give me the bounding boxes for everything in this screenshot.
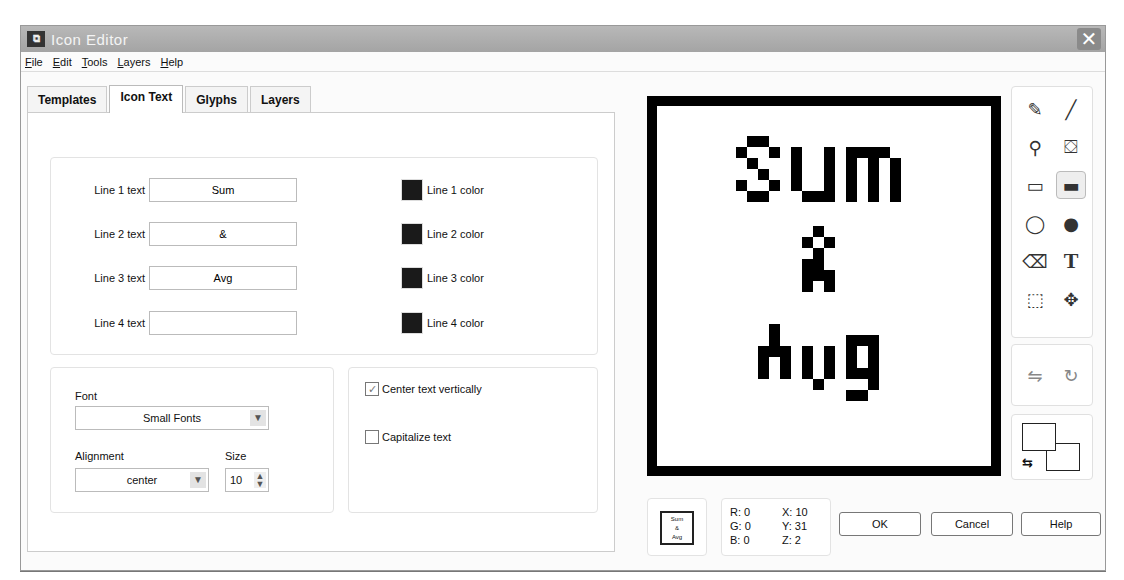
- menu-bar: File Edit Tools Layers Help: [21, 52, 1105, 72]
- line-2-input[interactable]: [149, 222, 297, 246]
- line-3-label: Line 3 text: [51, 272, 149, 284]
- line-3-color-swatch[interactable]: [401, 267, 423, 289]
- capitalize-checkbox[interactable]: [365, 430, 379, 444]
- eraser-icon[interactable]: ⌫: [1020, 247, 1050, 275]
- size-stepper[interactable]: 10 ▲▼: [225, 468, 269, 492]
- line-4-input[interactable]: [149, 311, 297, 335]
- line-2-color[interactable]: Line 2 color: [401, 222, 484, 246]
- primary-color-box[interactable]: [1022, 423, 1056, 451]
- chevron-down-icon[interactable]: ▼: [190, 472, 206, 488]
- green-value: G: 0: [730, 519, 751, 533]
- y-coordinate: Y: 31: [782, 519, 808, 533]
- line-4-row: Line 4 text: [51, 311, 297, 335]
- line-4-color-label: Line 4 color: [427, 317, 484, 329]
- page-heading-fragment: [16, 0, 76, 4]
- ellipse-icon[interactable]: ◯: [1020, 209, 1050, 237]
- filled-rectangle-icon[interactable]: ▬: [1056, 171, 1086, 199]
- alignment-label: Alignment: [75, 450, 124, 462]
- selection-icon[interactable]: ⬚: [1020, 285, 1050, 313]
- line-3-input[interactable]: [149, 266, 297, 290]
- line-2-label: Line 2 text: [51, 228, 149, 240]
- spin-arrows-icon[interactable]: ▲▼: [254, 472, 266, 488]
- icon-thumbnail: Sum & Avg: [660, 511, 694, 545]
- tab-icon-text[interactable]: Icon Text: [109, 85, 183, 113]
- text-lines-group: Line 1 text Line 2 text Line 3 text Line…: [50, 157, 598, 355]
- ok-button[interactable]: OK: [839, 512, 921, 536]
- color-picker-icon[interactable]: ⚲: [1020, 133, 1050, 161]
- line-3-row: Line 3 text: [51, 266, 297, 290]
- title-bar: ⧉ Icon Editor ✕: [21, 26, 1105, 52]
- center-vertically-option[interactable]: ✓ Center text vertically: [365, 382, 482, 396]
- line-3-color[interactable]: Line 3 color: [401, 266, 484, 290]
- swap-colors-icon[interactable]: ⇆: [1022, 455, 1033, 470]
- rotate-icon[interactable]: ↻: [1056, 361, 1086, 389]
- font-label: Font: [75, 390, 97, 402]
- center-vertically-checkbox[interactable]: ✓: [365, 382, 379, 396]
- menu-help[interactable]: Help: [160, 56, 183, 68]
- pencil-icon[interactable]: ✎: [1020, 95, 1050, 123]
- capitalize-label: Capitalize text: [382, 431, 451, 443]
- preview-line-3: Avg: [662, 533, 692, 542]
- line-1-color[interactable]: Line 1 color: [401, 178, 484, 202]
- z-coordinate: Z: 2: [782, 533, 808, 547]
- line-2-color-swatch[interactable]: [401, 223, 423, 245]
- menu-edit[interactable]: Edit: [53, 56, 72, 68]
- flip-horizontal-icon[interactable]: ⇋: [1020, 361, 1050, 389]
- cancel-button[interactable]: Cancel: [931, 512, 1013, 536]
- x-coordinate: X: 10: [782, 505, 808, 519]
- tab-glyphs[interactable]: Glyphs: [185, 86, 248, 112]
- line-1-row: Line 1 text: [51, 178, 297, 202]
- move-icon[interactable]: ✥: [1056, 285, 1086, 313]
- line-4-color-swatch[interactable]: [401, 312, 423, 334]
- menu-file[interactable]: File: [25, 56, 43, 68]
- tool-palette: ✎ ╱ ⚲ ⛋ ▭ ▬ ◯ ● ⌫ T ⬚ ✥: [1011, 86, 1093, 338]
- text-options-group: ✓ Center text vertically Capitalize text: [348, 367, 598, 513]
- color-swap-palette: ⇆: [1011, 414, 1093, 480]
- preview-line-1: Sum: [662, 515, 692, 524]
- red-value: R: 0: [730, 505, 751, 519]
- capitalize-option[interactable]: Capitalize text: [365, 430, 451, 444]
- line-4-label: Line 4 text: [51, 317, 149, 329]
- text-tool-icon[interactable]: T: [1056, 247, 1086, 275]
- line-4-color[interactable]: Line 4 color: [401, 311, 484, 335]
- app-icon: ⧉: [27, 31, 45, 47]
- fill-bucket-icon[interactable]: ⛋: [1056, 133, 1086, 161]
- line-1-label: Line 1 text: [51, 184, 149, 196]
- pixel-info: R: 0 G: 0 B: 0 X: 10 Y: 31 Z: 2: [721, 498, 831, 556]
- line-3-color-label: Line 3 color: [427, 272, 484, 284]
- blue-value: B: 0: [730, 533, 751, 547]
- rectangle-icon[interactable]: ▭: [1020, 171, 1050, 199]
- line-2-row: Line 2 text: [51, 222, 297, 246]
- icon-editor-window: ⧉ Icon Editor ✕ File Edit Tools Layers H…: [20, 25, 1106, 571]
- close-button[interactable]: ✕: [1077, 28, 1101, 50]
- font-select[interactable]: Small Fonts ▼: [75, 406, 269, 430]
- transform-palette: ⇋ ↻: [1011, 344, 1093, 406]
- window-title: Icon Editor: [51, 31, 128, 48]
- line-2-color-label: Line 2 color: [427, 228, 484, 240]
- menu-layers[interactable]: Layers: [117, 56, 150, 68]
- filled-ellipse-icon[interactable]: ●: [1056, 209, 1086, 237]
- alignment-select[interactable]: center ▼: [75, 468, 209, 492]
- tab-bar: Templates Icon Text Glyphs Layers: [27, 80, 313, 112]
- font-select-value: Small Fonts: [143, 412, 201, 424]
- center-vertically-label: Center text vertically: [382, 383, 482, 395]
- size-value: 10: [230, 474, 242, 486]
- tab-layers[interactable]: Layers: [250, 86, 311, 112]
- help-button[interactable]: Help: [1021, 512, 1101, 536]
- tab-templates[interactable]: Templates: [27, 86, 107, 112]
- icon-canvas[interactable]: [647, 96, 1001, 476]
- line-icon[interactable]: ╱: [1056, 95, 1086, 123]
- line-1-color-swatch[interactable]: [401, 179, 423, 201]
- line-1-input[interactable]: [149, 178, 297, 202]
- menu-tools[interactable]: Tools: [82, 56, 108, 68]
- size-label: Size: [225, 450, 246, 462]
- font-group: Font Small Fonts ▼ Alignment center ▼ Si…: [50, 367, 334, 513]
- alignment-select-value: center: [127, 474, 158, 486]
- preview-line-2: &: [662, 524, 692, 533]
- icon-preview: Sum & Avg: [647, 498, 707, 556]
- icon-text-panel: Line 1 text Line 2 text Line 3 text Line…: [27, 112, 615, 552]
- line-1-color-label: Line 1 color: [427, 184, 484, 196]
- chevron-down-icon[interactable]: ▼: [250, 410, 266, 426]
